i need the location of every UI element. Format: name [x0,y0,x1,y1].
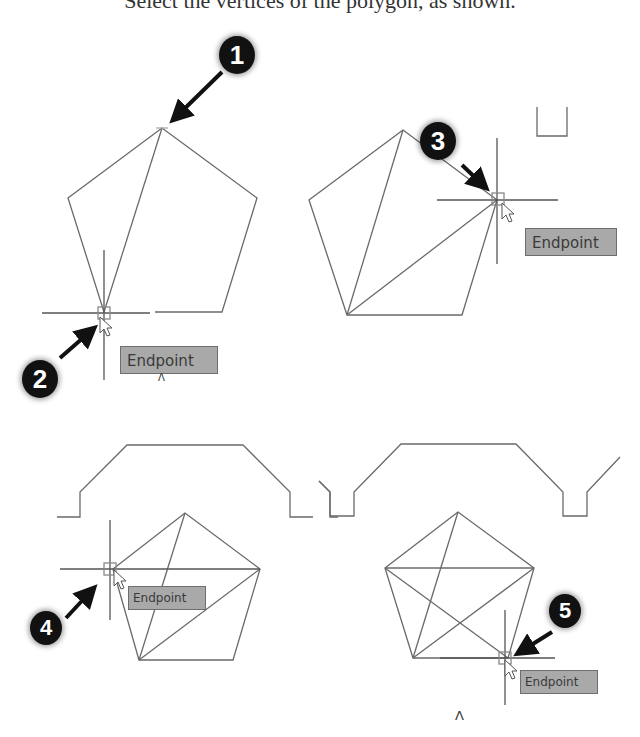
step-marker-1: 1 [219,36,255,74]
cursor-icon-3 [502,203,514,222]
step-marker-5: 5 [549,594,581,628]
cursor-icon-4 [114,570,126,589]
caret-panel-4: Λ [455,708,464,723]
panel-4-pentagon [385,512,534,658]
step-marker-2: 2 [22,360,58,398]
endpoint-tooltip-panel-3: Endpoint [128,586,206,610]
panel-3-profile-partial [319,481,338,517]
endpoint-tooltip-panel-2: Endpoint [525,228,617,256]
arrow-5 [520,632,552,652]
panel-2-pentagon [309,130,497,315]
endpoint-tooltip-panel-4: Endpoint [520,670,598,694]
panel-4-profile [319,444,620,516]
arrow-2 [60,330,92,358]
step-marker-4: 4 [30,611,62,645]
arrow-1 [175,72,222,118]
caret-panel-1: Λ [158,372,165,383]
drawing-canvas [0,0,640,737]
panel-2-profile-notch [537,107,567,136]
cursor-icon-2 [100,317,112,336]
step-marker-3: 3 [420,122,456,160]
panel-3-profile [57,445,313,517]
panel-1-pentagon [68,128,257,312]
endpoint-tooltip-panel-1: Endpoint [120,346,218,374]
arrow-4 [66,590,92,618]
